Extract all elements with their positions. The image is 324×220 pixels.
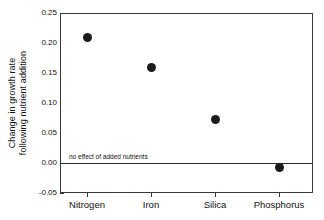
y-tick-label-3: 0.10 — [17, 99, 57, 107]
y-tick-label-5: 0.00 — [17, 159, 57, 167]
y-tick-label-0: 0.25 — [17, 9, 57, 17]
data-point-silica[interactable] — [211, 115, 220, 124]
y-tick-label-4: 0.05 — [17, 129, 57, 137]
data-point-nitrogen[interactable] — [83, 33, 92, 42]
y-tick-label-6: -0.05 — [17, 189, 57, 197]
y-tick-label-2: 0.15 — [17, 69, 57, 77]
y-tick-mark-6 — [60, 193, 64, 194]
chart-figure: Change in growth rate following nutrient… — [0, 0, 324, 220]
x-tick-mark-1 — [151, 193, 152, 197]
data-point-iron[interactable] — [147, 63, 156, 72]
y-tick-label-1: 0.20 — [17, 39, 57, 47]
x-tick-label-phosphorus: Phosphorus — [254, 199, 305, 210]
x-tick-mark-2 — [215, 193, 216, 197]
x-tick-label-nitrogen: Nitrogen — [69, 199, 105, 210]
x-tick-mark-0 — [87, 193, 88, 197]
x-tick-mark-3 — [279, 193, 280, 197]
x-tick-label-iron: Iron — [143, 199, 159, 210]
zero-line-annotation: no effect of added nutrients — [69, 153, 148, 160]
x-tick-label-silica: Silica — [204, 199, 227, 210]
data-point-phosphorus[interactable] — [275, 163, 284, 172]
